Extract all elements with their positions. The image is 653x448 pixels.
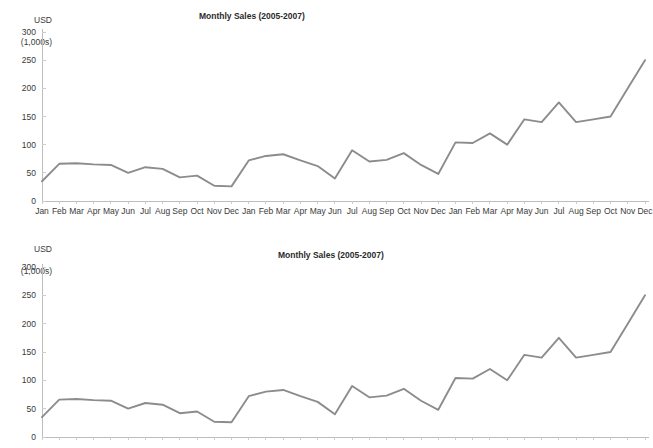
chart-svg bbox=[0, 0, 653, 224]
sales-series-line bbox=[42, 295, 645, 422]
sales-series-line bbox=[42, 60, 645, 186]
chart-top-panel: USD (1,000s) Monthly Sales (2005-2007) 0… bbox=[0, 0, 653, 224]
chart-bottom-panel: USD (1,000s) Monthly Sales (2005-2007) 0… bbox=[0, 229, 653, 448]
plot-area-top: 050100150200250300JanFebMarAprMayJunJulA… bbox=[0, 0, 653, 224]
x-tick-label: Dec bbox=[634, 207, 653, 216]
plot-area-bottom: 050100150200250300 bbox=[0, 229, 653, 448]
chart-svg bbox=[0, 229, 653, 448]
